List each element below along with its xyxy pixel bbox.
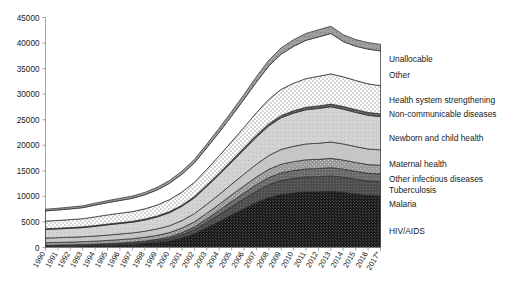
chart-legend: UnallocableOtherHealth system strengthen…	[389, 54, 497, 236]
legend-label: Non-communicable diseases	[389, 109, 497, 119]
legend-label: Unallocable	[389, 54, 433, 64]
stacked-area-chart: 0500010000150002000025000300003500040000…	[0, 0, 518, 290]
x-axis: 1990199119921993199419951996199719981999…	[31, 248, 382, 272]
y-tick-label: 30000	[17, 90, 40, 99]
y-axis: 0500010000150002000025000300003500040000…	[17, 14, 46, 253]
y-tick-label: 25000	[17, 116, 40, 125]
chart-canvas: 0500010000150002000025000300003500040000…	[0, 0, 518, 290]
plot-area	[46, 26, 381, 247]
legend-label: Health system strengthening	[389, 95, 495, 105]
legend-label: HIV/AIDS	[389, 226, 425, 236]
y-tick-label: 15000	[17, 167, 40, 176]
legend-label: Malaria	[389, 199, 417, 209]
legend-label: Other infectious diseases	[389, 174, 483, 184]
y-tick-label: 5000	[21, 218, 40, 227]
y-tick-label: 45000	[17, 14, 40, 23]
x-tick-label: 2010	[279, 250, 295, 269]
y-tick-label: 35000	[17, 65, 40, 74]
legend-label: Newborn and child health	[389, 133, 484, 143]
legend-label: Other	[389, 70, 410, 80]
y-tick-label: 20000	[17, 141, 40, 150]
legend-label: Maternal health	[389, 159, 447, 169]
y-tick-label: 40000	[17, 39, 40, 48]
legend-label: Tuberculosis	[389, 185, 436, 195]
y-tick-label: 10000	[17, 192, 40, 201]
